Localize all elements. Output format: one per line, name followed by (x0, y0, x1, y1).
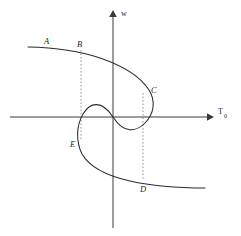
T0-axis-label-subscript: 0 (224, 113, 227, 119)
label-D: D (139, 184, 147, 194)
figure-canvas: A B C D E w T 0 (0, 0, 241, 236)
label-E: E (69, 139, 76, 149)
label-B: B (77, 39, 82, 49)
label-C: C (151, 85, 157, 95)
T0-axis-label: T (218, 107, 223, 116)
label-A: A (43, 36, 50, 46)
w-axis-label: w (121, 9, 127, 18)
vertical-axis-arrow-icon (109, 10, 117, 17)
horizontal-axis-arrow-icon (207, 113, 214, 121)
hysteresis-curve-figure: A B C D E w T 0 (0, 0, 241, 236)
